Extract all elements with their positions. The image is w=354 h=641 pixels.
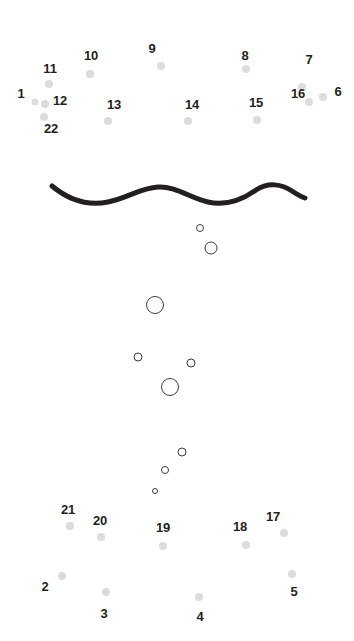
puzzle-dot[interactable] [242, 65, 250, 73]
dot-number-label: 4 [196, 610, 203, 623]
dot-number-label: 2 [41, 580, 48, 593]
dot-number-label: 7 [305, 53, 312, 66]
bubble-circle [161, 378, 179, 396]
puzzle-dot[interactable] [242, 541, 250, 549]
dot-number-label: 17 [266, 510, 280, 523]
puzzle-dot[interactable] [45, 80, 53, 88]
dot-number-label: 18 [233, 520, 247, 533]
bubble-circle [178, 448, 187, 457]
dot-number-label: 14 [185, 98, 199, 111]
bubble-circle [205, 242, 218, 255]
puzzle-dot[interactable] [58, 572, 66, 580]
dot-number-label: 13 [107, 98, 121, 111]
puzzle-canvas: 11112221013914815716621201918172345 [0, 0, 354, 641]
bubble-circle [146, 296, 164, 314]
puzzle-dot[interactable] [97, 533, 105, 541]
puzzle-dot[interactable] [157, 62, 165, 70]
dot-number-label: 8 [241, 49, 248, 62]
dot-number-label: 22 [44, 122, 58, 135]
dot-number-label: 15 [249, 96, 263, 109]
bubble-circle [196, 224, 204, 232]
dot-number-label: 19 [156, 521, 170, 534]
puzzle-dot[interactable] [159, 542, 167, 550]
puzzle-dot[interactable] [280, 529, 288, 537]
bubble-circle [161, 466, 169, 474]
puzzle-dot[interactable] [305, 98, 313, 106]
dot-number-label: 11 [43, 62, 56, 75]
puzzle-dot[interactable] [195, 593, 203, 601]
puzzle-dot[interactable] [253, 116, 261, 124]
dot-number-label: 3 [100, 607, 107, 620]
puzzle-dot[interactable] [32, 99, 39, 106]
wavy-line-icon [52, 185, 305, 204]
puzzle-dot[interactable] [184, 117, 192, 125]
dot-number-label: 9 [148, 42, 155, 55]
bubble-circle [187, 359, 196, 368]
dot-number-label: 12 [53, 94, 67, 107]
puzzle-dot[interactable] [102, 588, 110, 596]
dot-number-label: 6 [334, 85, 341, 98]
dot-number-label: 21 [61, 503, 75, 516]
dot-number-label: 5 [290, 585, 297, 598]
dot-number-label: 10 [84, 49, 98, 62]
puzzle-dot[interactable] [41, 100, 49, 108]
puzzle-dot[interactable] [66, 522, 74, 530]
puzzle-dot[interactable] [104, 117, 112, 125]
dot-number-label: 20 [93, 514, 107, 527]
bubble-circle [152, 488, 158, 494]
dot-number-label: 16 [291, 87, 305, 100]
puzzle-dot[interactable] [319, 93, 327, 101]
bubble-circle [134, 353, 143, 362]
dot-number-label: 1 [17, 87, 24, 100]
puzzle-dot[interactable] [86, 70, 94, 78]
puzzle-dot[interactable] [288, 570, 296, 578]
